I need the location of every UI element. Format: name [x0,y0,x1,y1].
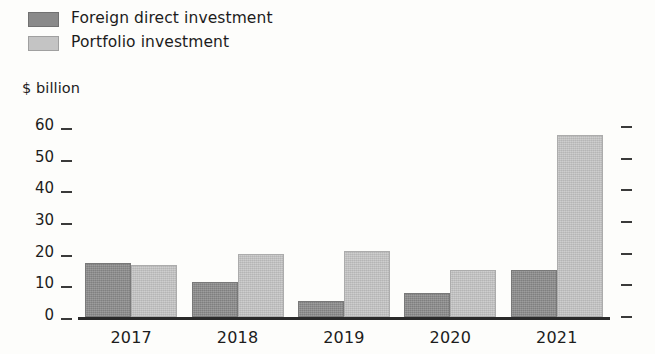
y-axis-tick-label: 30 [22,213,54,228]
y-axis-tick-mark [61,255,72,257]
x-axis-label-2018: 2018 [184,328,290,347]
y-axis-tick-mark [61,191,72,193]
y-axis-right-tick-mark [621,221,632,223]
bar-fdi-2019 [298,301,344,317]
bar-fdi-2017 [85,263,131,317]
y-axis-tick-mark [61,223,72,225]
y-axis-tick-60: 60 [22,118,72,133]
y-axis-tick-20: 20 [22,245,72,260]
y-axis-tick-mark [61,286,72,288]
bar-pf-2018 [238,254,284,317]
y-axis-tick-label: 60 [22,118,54,133]
y-axis-right-tick-mark [621,284,632,286]
x-axis-baseline [78,317,610,320]
y-axis-tick-label: 10 [22,276,54,291]
y-axis-tick-mark [61,318,72,320]
bar-fdi-2021 [511,270,557,318]
y-axis-tick-mark [61,160,72,162]
y-axis-tick-label: 20 [22,245,54,260]
y-axis-tick-mark [61,128,72,130]
y-axis-right-tick-mark [621,158,632,160]
y-axis-tick-10: 10 [22,276,72,291]
bar-pf-2021 [557,135,603,317]
x-axis-label-2019: 2019 [291,328,397,347]
bar-fdi-2018 [192,282,238,317]
x-axis-label-2021: 2021 [504,328,610,347]
bar-pf-2017 [131,265,177,317]
x-axis-label-2020: 2020 [397,328,503,347]
y-axis-tick-0: 0 [22,308,72,323]
y-axis-right-tick-mark [621,253,632,255]
y-axis-tick-label: 0 [22,308,54,323]
y-axis-tick-30: 30 [22,213,72,228]
bar-fdi-2020 [404,293,450,317]
y-axis-tick-40: 40 [22,181,72,196]
bar-pf-2019 [344,251,390,318]
plot-area: 605040302010020172018201920202021 [0,0,655,354]
chart-figure: Foreign direct investment Portfolio inve… [0,0,655,354]
y-axis-tick-label: 50 [22,150,54,165]
y-axis-tick-label: 40 [22,181,54,196]
bar-pf-2020 [450,270,496,318]
x-axis-label-2017: 2017 [78,328,184,347]
y-axis-right-tick-mark [621,316,632,318]
y-axis-right-tick-mark [621,189,632,191]
y-axis-tick-50: 50 [22,150,72,165]
y-axis-right-tick-mark [621,126,632,128]
